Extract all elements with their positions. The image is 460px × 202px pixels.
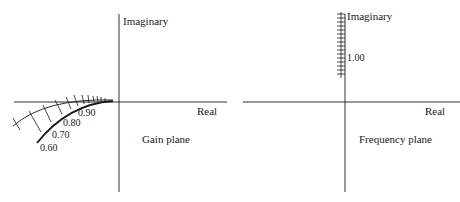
freq-tick-label-1.00: 1.00 [347, 52, 365, 63]
freq-real-axis-label: Real [425, 105, 445, 117]
frequency-plane-title: Frequency plane [359, 133, 432, 145]
diagram-canvas [0, 0, 460, 202]
locus-label-0.80: 0.80 [63, 117, 81, 128]
freq-imag-axis-label: Imaginary [347, 10, 392, 22]
locus-label-0.70: 0.70 [52, 129, 70, 140]
freq-imag-ticks [337, 12, 345, 78]
locus-label-0.60: 0.60 [40, 142, 58, 153]
gain-imag-axis-label: Imaginary [123, 15, 168, 27]
gain-plane-title: Gain plane [142, 133, 190, 145]
gain-real-axis-label: Real [197, 105, 217, 117]
locus-label-0.90: 0.90 [78, 107, 96, 118]
